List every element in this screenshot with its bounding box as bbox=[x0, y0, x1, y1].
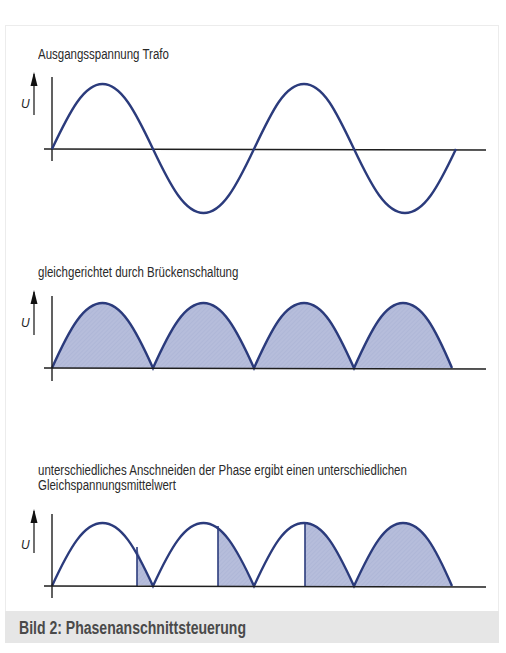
x-axis bbox=[44, 586, 486, 587]
arrowhead-icon bbox=[31, 509, 38, 523]
axis-label-u: U bbox=[21, 316, 30, 330]
figure-caption: Bild 2: Phasenanschnittsteuerung bbox=[19, 618, 246, 639]
figure-caption-bar: Bild 2: Phasenanschnittsteuerung bbox=[5, 611, 499, 643]
panel-phase-cut: U bbox=[21, 509, 486, 598]
arrowhead-icon bbox=[31, 290, 38, 304]
x-axis bbox=[44, 368, 486, 369]
arrowhead-icon bbox=[31, 72, 38, 86]
panel-trafo: U bbox=[21, 72, 486, 213]
x-axis bbox=[44, 149, 486, 150]
axis-label-u: U bbox=[21, 538, 30, 552]
cut-area-3 bbox=[305, 523, 354, 586]
rectified-area bbox=[52, 303, 452, 368]
waveform-diagram: U U U bbox=[0, 0, 506, 653]
panel-bridge: U bbox=[21, 290, 486, 381]
axis-label-u: U bbox=[21, 97, 30, 111]
